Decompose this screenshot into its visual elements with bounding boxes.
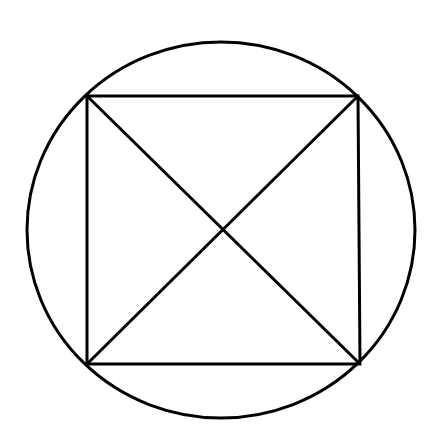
diagram-canvas (0, 0, 436, 441)
inscribed-square-diagram (0, 0, 436, 441)
